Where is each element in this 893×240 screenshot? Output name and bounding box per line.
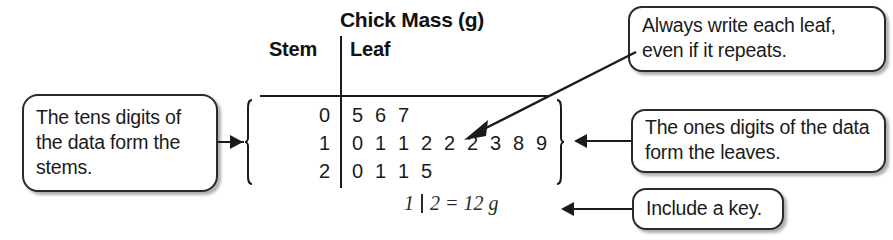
connector-key-line [564, 208, 632, 210]
leaf-value: 1 [398, 132, 421, 155]
stem-value: 2 [252, 160, 330, 183]
connector-leaves-arrowhead [574, 134, 587, 148]
callout-key-text: Include a key. [646, 196, 762, 221]
leaf-values: 011222389 [352, 132, 559, 155]
stem-value: 1 [252, 132, 330, 155]
callout-leaves: The ones digits of the data form the lea… [631, 109, 886, 173]
column-header-stem: Stem [252, 38, 334, 61]
leaf-value: 1 [398, 160, 421, 183]
leaf-value: 0 [352, 132, 375, 155]
leaf-value: 9 [536, 132, 559, 155]
leaf-value: 7 [398, 104, 421, 127]
table-row: 0 567 [252, 104, 572, 132]
callout-stems: The tens digits of the data form the ste… [22, 94, 218, 192]
leaf-value: 2 [467, 132, 490, 155]
stem-value: 0 [252, 104, 330, 127]
leaf-value: 8 [513, 132, 536, 155]
stem-and-leaf-diagram: The tens digits of the data form the ste… [0, 0, 893, 240]
callout-leaves-text: The ones digits of the data form the lea… [645, 115, 872, 165]
key-leaf: 2 [430, 192, 440, 214]
leaf-value: 2 [444, 132, 467, 155]
leaf-value: 5 [352, 104, 375, 127]
callout-repeats-text: Always write each leaf, even if it repea… [642, 13, 872, 63]
leaf-value: 6 [375, 104, 398, 127]
key-stem: 1 [404, 192, 414, 214]
callout-repeats: Always write each leaf, even if it repea… [628, 6, 886, 72]
leaf-value: 1 [375, 160, 398, 183]
key-value: 12 g [464, 192, 499, 214]
leaf-value: 5 [421, 160, 444, 183]
key-equals: = [445, 192, 459, 214]
table-row: 1 011222389 [252, 132, 572, 160]
leaf-values: 0115 [352, 160, 444, 183]
leaf-value: 1 [375, 132, 398, 155]
column-header-leaf: Leaf [350, 38, 390, 61]
leaf-value: 0 [352, 160, 375, 183]
plot-title: Chick Mass (g) [252, 8, 572, 32]
callout-key: Include a key. [632, 188, 784, 230]
leaf-values: 567 [352, 104, 421, 127]
key-divider-icon [421, 194, 423, 213]
callout-stems-text: The tens digits of the data form the ste… [36, 105, 204, 180]
connector-stems-arrowhead [230, 135, 243, 149]
leaf-value: 2 [421, 132, 444, 155]
header-rule [260, 95, 548, 97]
plot-key: 12 = 12 g [404, 192, 499, 215]
leaf-value: 3 [490, 132, 513, 155]
table-row: 2 0115 [252, 160, 572, 188]
